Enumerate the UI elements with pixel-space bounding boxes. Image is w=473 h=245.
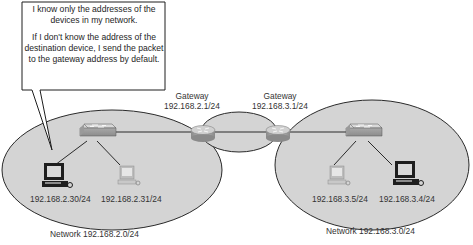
- gateway-right-address: 192.168.3.1/24: [249, 101, 311, 111]
- callout-line-2: If I don't know the address of the desti…: [24, 32, 164, 65]
- host-address-label: 192.168.2.31/24: [101, 194, 162, 204]
- host-address-label: 192.168.3.4/24: [379, 194, 435, 204]
- network-right-area: [275, 100, 469, 230]
- gateway-left-address: 192.168.2.1/24: [161, 101, 223, 111]
- gateway-left-label: Gateway 192.168.2.1/24: [161, 91, 223, 111]
- gateway-right-title: Gateway: [249, 91, 311, 101]
- network-left-label: Network 192.168.2.0/24: [50, 229, 139, 239]
- router-right-icon: [266, 126, 290, 143]
- host-address-label: 192.168.3.5/24: [312, 194, 368, 204]
- gateway-left-title: Gateway: [161, 91, 223, 101]
- router-left-icon: [191, 126, 215, 143]
- callout-line-1: I know only the addresses of the devices…: [24, 4, 164, 26]
- network-right-label: Network 192.168.3.0/24: [326, 226, 415, 236]
- gateway-right-label: Gateway 192.168.3.1/24: [249, 91, 311, 111]
- host-address-label: 192.168.2.30/24: [30, 194, 91, 204]
- callout-text: I know only the addresses of the devices…: [24, 4, 164, 71]
